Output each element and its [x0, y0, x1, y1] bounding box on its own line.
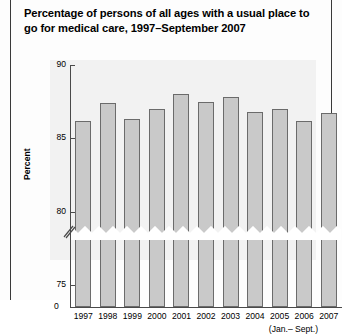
x-label-2005: 2005	[267, 311, 293, 321]
y-tick-label-85: 85	[40, 133, 66, 142]
y-tick-label-75: 75	[40, 280, 66, 289]
x-label-2006: 2006	[291, 311, 317, 321]
x-label-2000: 2000	[144, 311, 170, 321]
x-axis-footnote: (Jan.– Sept.)	[269, 324, 318, 334]
x-label-1997: 1997	[70, 311, 96, 321]
y-axis-zero-label: 0	[54, 301, 59, 311]
y-axis-break-mark	[62, 224, 76, 240]
bar-2003	[223, 97, 239, 307]
x-label-1998: 1998	[95, 311, 121, 321]
bar-1997	[75, 121, 91, 307]
chart-area: Percent 75808590 0 199719981999200020012…	[24, 52, 324, 292]
x-label-2007: 2007	[316, 311, 342, 321]
x-label-2001: 2001	[168, 311, 194, 321]
x-axis-labels: 1997199819992000200120022003200420052006…	[71, 311, 342, 325]
bar-2002	[198, 102, 214, 307]
bar-2007	[321, 113, 337, 307]
bar-series	[71, 65, 341, 307]
x-label-2004: 2004	[242, 311, 268, 321]
x-axis-line	[70, 307, 342, 308]
left-page-rule	[10, 0, 11, 300]
x-label-1999: 1999	[119, 311, 145, 321]
x-label-2003: 2003	[218, 311, 244, 321]
bar-1998	[100, 103, 116, 307]
bar-2004	[247, 112, 263, 307]
y-axis-title: Percent	[22, 148, 32, 180]
bar-2001	[173, 94, 189, 307]
y-tick-label-90: 90	[40, 60, 66, 69]
y-tick-label-80: 80	[40, 207, 66, 216]
chart-title: Percentage of persons of all ages with a…	[24, 6, 324, 35]
x-label-2002: 2002	[193, 311, 219, 321]
bar-2000	[149, 109, 165, 307]
bar-2005	[272, 109, 288, 307]
bar-2006	[296, 121, 312, 307]
bar-1999	[124, 119, 140, 307]
